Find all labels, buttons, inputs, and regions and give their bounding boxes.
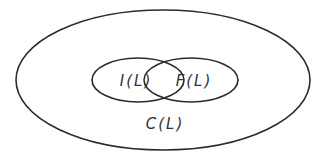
set-f-label: F(L) [176,72,213,90]
set-i-label: I(L) [120,72,153,90]
outer-set-c-label: C(L) [146,115,185,133]
venn-diagram-svg: I(L) F(L) C(L) [0,0,327,160]
venn-diagram: I(L) F(L) C(L) [0,0,327,160]
